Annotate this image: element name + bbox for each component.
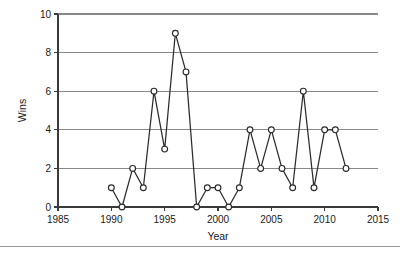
data-point	[183, 69, 189, 75]
data-point	[194, 204, 200, 210]
data-point	[343, 166, 349, 172]
data-point	[279, 166, 285, 172]
data-point	[226, 204, 232, 210]
data-point	[204, 185, 210, 191]
x-tick-label-1990: 1990	[100, 214, 123, 225]
data-point	[108, 185, 114, 191]
x-axis-title: Year	[207, 230, 229, 242]
x-tick-label-2000: 2000	[207, 214, 230, 225]
data-point	[130, 166, 136, 172]
y-tick-label-6: 6	[45, 86, 51, 97]
wins-by-year-line-chart: 02468101985199019952000200520102015YearW…	[0, 0, 400, 255]
y-axis-title: Wins	[16, 99, 28, 122]
data-point	[162, 146, 168, 152]
data-point	[172, 30, 178, 36]
data-point	[311, 185, 317, 191]
y-tick-label-8: 8	[45, 47, 51, 58]
x-tick-label-2010: 2010	[314, 214, 337, 225]
data-point	[332, 127, 338, 133]
footer-divider	[0, 246, 400, 247]
data-point	[215, 185, 221, 191]
x-tick-label-1995: 1995	[154, 214, 177, 225]
series-line-wins	[111, 33, 346, 207]
y-tick-label-0: 0	[45, 202, 51, 213]
chart-figure: 02468101985199019952000200520102015YearW…	[0, 0, 400, 255]
data-point	[290, 185, 296, 191]
data-point	[300, 88, 306, 94]
data-point	[140, 185, 146, 191]
data-point	[322, 127, 328, 133]
x-tick-label-2015: 2015	[367, 214, 390, 225]
data-point	[268, 127, 274, 133]
y-tick-label-2: 2	[45, 163, 51, 174]
data-point	[258, 166, 264, 172]
data-point	[236, 185, 242, 191]
x-tick-label-1985: 1985	[47, 214, 70, 225]
y-tick-label-10: 10	[40, 9, 52, 20]
x-tick-label-2005: 2005	[260, 214, 283, 225]
y-tick-label-4: 4	[45, 124, 51, 135]
data-point	[119, 204, 125, 210]
data-point	[247, 127, 253, 133]
data-point	[151, 88, 157, 94]
